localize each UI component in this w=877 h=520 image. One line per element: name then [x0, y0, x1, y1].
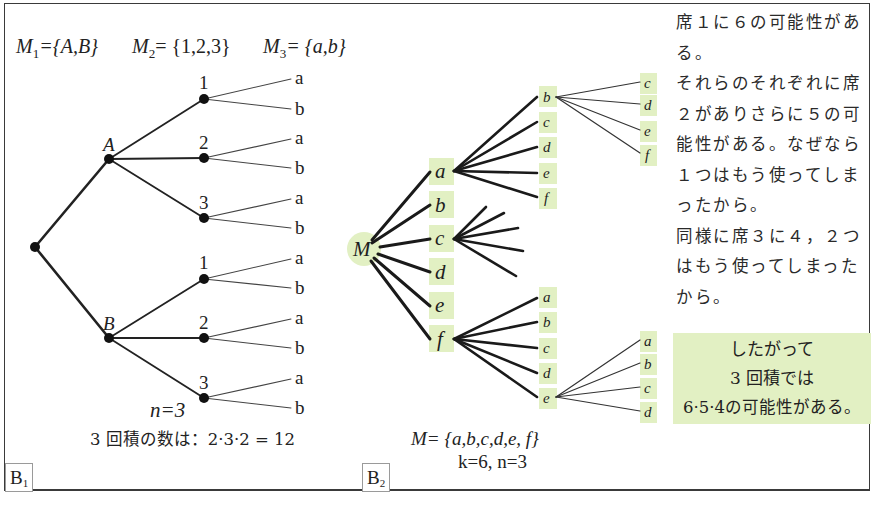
explanation-line: それらのそれぞれに席: [676, 69, 866, 100]
node-B3: 3: [199, 372, 209, 393]
leaf-a: a: [295, 127, 304, 148]
b2-params-label: k=6, n=3: [458, 451, 527, 472]
node-a: a: [435, 159, 446, 183]
set-m1: M1={A,B}: [15, 35, 98, 61]
node-fd: d: [543, 365, 551, 381]
conclusion-box: したがって 3 回積では 6·5·4の可能性がある。: [673, 333, 871, 424]
leaf-b: b: [295, 277, 305, 298]
node-e: e: [435, 293, 444, 317]
node-fec: c: [644, 380, 651, 396]
node-c: c: [435, 226, 445, 250]
n-label: n=3: [150, 398, 185, 422]
explanation-line: １つはもう使ってしま: [676, 161, 866, 192]
leaf-a: a: [295, 367, 304, 388]
leaf-b: b: [295, 217, 305, 238]
explanation-line: 能性がある。なぜなら: [676, 130, 866, 161]
node-b: b: [435, 193, 446, 217]
node-fa: a: [543, 289, 551, 305]
conclusion-line-2: 3 回積では: [673, 364, 871, 393]
node-fb: b: [543, 314, 551, 330]
node-ac: c: [543, 114, 550, 130]
explanation-line: る。: [676, 39, 866, 70]
explanation-line: ２がありさらに５の可: [676, 100, 866, 131]
leaf-b: b: [295, 98, 305, 119]
conclusion-line-1: したがって: [673, 335, 871, 364]
panel-tag-b1-letter: B: [10, 467, 23, 488]
node-fe: e: [543, 390, 550, 406]
leaf-a: a: [295, 307, 304, 328]
product-text: 3 回積の数は：2·3·2 = 12: [90, 430, 295, 449]
panel-tag-b1: B1: [5, 463, 33, 492]
leaf-a: a: [295, 67, 304, 88]
set-m3: M3= {a,b}: [262, 35, 346, 61]
node-fed: d: [644, 404, 652, 420]
node-A1: 1: [199, 72, 209, 93]
node-d: d: [435, 260, 446, 284]
panel-tag-b1-sub: 1: [23, 477, 29, 489]
panel-tag-b2-letter: B: [367, 467, 380, 488]
node-abe: e: [644, 123, 651, 139]
leaf-b: b: [295, 397, 305, 418]
node-A3: 3: [199, 192, 209, 213]
explanation-line: 同様に席３に４，２つ: [676, 222, 866, 253]
conclusion-line-3: 6·5·4の可能性がある。: [673, 393, 871, 422]
node-fea: a: [644, 333, 652, 349]
node-ab: b: [543, 89, 551, 105]
node-ae: e: [543, 165, 550, 181]
leaf-a: a: [295, 187, 304, 208]
node-feb: b: [644, 356, 652, 372]
panel-tag-b2-sub: 2: [380, 477, 386, 489]
leaf-b: b: [295, 157, 305, 178]
node-abc: c: [644, 75, 651, 91]
explanation-line: 席１に６の可能性があ: [676, 8, 866, 39]
explanation-line: はもう使ってしまった: [676, 252, 866, 283]
node-B1: 1: [199, 252, 209, 273]
node-abd: d: [644, 97, 652, 113]
b2-tree: [371, 82, 640, 411]
node-ad: d: [543, 139, 551, 155]
node-B: B: [103, 313, 115, 334]
panel-tag-b2: B2: [362, 463, 390, 492]
b2-set-label: M= {a,b,c,d,e, f}: [410, 428, 539, 449]
explanation-text: 席１に６の可能性があ る。 それらのそれぞれに席 ２がありさらに５の可 能性があ…: [676, 8, 866, 313]
leaf-b: b: [295, 337, 305, 358]
b1-nodes: [30, 94, 209, 403]
node-M: M: [352, 237, 372, 261]
leaf-a: a: [295, 247, 304, 268]
explanation-line: から。: [676, 283, 866, 314]
node-fc: c: [543, 340, 550, 356]
b1-tree: [35, 79, 291, 408]
set-m2: M2= {1,2,3}: [131, 35, 231, 61]
node-B2: 2: [199, 312, 209, 333]
node-A2: 2: [199, 132, 209, 153]
node-A: A: [101, 134, 115, 155]
explanation-line: ったから。: [676, 191, 866, 222]
